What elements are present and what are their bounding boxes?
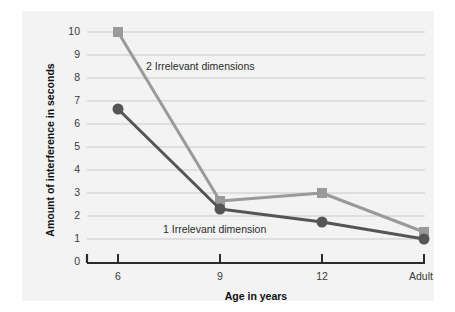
y-tick-label-6: 6 — [74, 117, 80, 129]
chart-figure: 10 9 8 7 6 5 4 3 2 1 0 — [0, 0, 455, 312]
series-line-one-dimension — [118, 109, 424, 239]
data-point-one-dim-adult — [419, 234, 430, 245]
y-tick-label-2: 2 — [74, 209, 80, 221]
y-tick-label-1: 1 — [74, 232, 80, 244]
x-tick-marks-group — [118, 254, 424, 263]
x-axis-title: Age in years — [225, 290, 288, 302]
y-tick-label-3: 3 — [74, 186, 80, 198]
x-tick-labels-group: 6 9 12 Adult — [115, 270, 433, 282]
annotation-two-irrelevant-dimensions: 2 Irrelevant dimensions — [146, 60, 255, 72]
chart-canvas: 10 9 8 7 6 5 4 3 2 1 0 — [0, 0, 455, 312]
annotation-one-irrelevant-dimension: 1 Irrelevant dimension — [163, 223, 266, 235]
y-tick-label-7: 7 — [74, 94, 80, 106]
y-tick-label-10: 10 — [68, 25, 80, 37]
data-point-two-dim-age6 — [113, 27, 123, 37]
y-axis-title: Amount of interference in seconds — [44, 63, 56, 236]
series-2-irrelevant-dimensions — [113, 27, 429, 237]
x-tick-label-12: 12 — [316, 270, 328, 282]
axis-spines-group — [87, 254, 425, 263]
y-tick-labels-group: 10 9 8 7 6 5 4 3 2 1 0 — [68, 25, 80, 267]
y-tick-label-4: 4 — [74, 163, 80, 175]
y-tick-label-0: 0 — [74, 255, 80, 267]
data-point-one-dim-age6 — [113, 104, 124, 115]
y-tick-label-8: 8 — [74, 71, 80, 83]
x-tick-label-6: 6 — [115, 270, 121, 282]
data-point-two-dim-age12 — [317, 188, 327, 198]
x-tick-label-adult: Adult — [409, 270, 433, 282]
line-chart-svg: 10 9 8 7 6 5 4 3 2 1 0 — [0, 0, 455, 312]
series-1-irrelevant-dimension — [113, 104, 430, 245]
x-tick-label-9: 9 — [217, 270, 223, 282]
data-point-one-dim-age9 — [215, 204, 226, 215]
y-tick-label-5: 5 — [74, 140, 80, 152]
y-tick-label-9: 9 — [74, 48, 80, 60]
data-point-one-dim-age12 — [317, 217, 328, 228]
